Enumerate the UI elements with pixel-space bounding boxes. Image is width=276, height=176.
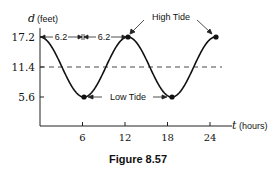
span-label-1: 6.2 <box>55 32 68 42</box>
ytick-label-17-2: 17.2 <box>12 31 35 43</box>
y-axis-unit: (feet) <box>37 14 58 24</box>
x-axis-var: t <box>232 119 237 132</box>
xtick-label-6: 6 <box>79 132 85 143</box>
tide-curve <box>40 37 216 97</box>
high-tide-label: High Tide <box>152 12 190 22</box>
y-axis-var: d <box>28 12 35 25</box>
tide-chart: d (feet) 17.2 11.4 5.6 6 12 18 24 t (hou… <box>0 0 276 176</box>
high-tide-point-1 <box>125 34 130 39</box>
low-tide-point-2 <box>169 94 174 99</box>
high-tide-point-2 <box>213 34 218 39</box>
figure-caption: Figure 8.57 <box>0 153 276 165</box>
ytick-label-5-6: 5.6 <box>18 91 35 103</box>
ytick-label-11-4: 11.4 <box>12 61 36 73</box>
xtick-label-18: 18 <box>161 132 174 143</box>
span-label-2: 6.2 <box>98 32 111 42</box>
xtick-label-24: 24 <box>204 132 217 143</box>
x-axis-unit: (hours) <box>239 121 268 131</box>
xtick-label-12: 12 <box>119 132 132 143</box>
low-tide-label: Low Tide <box>110 92 146 102</box>
low-tide-point-1 <box>81 94 86 99</box>
